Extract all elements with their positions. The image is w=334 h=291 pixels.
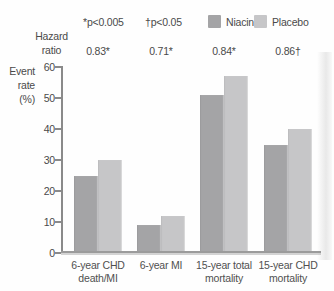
- y-tick-mark: [55, 66, 61, 68]
- y-axis-line: [61, 66, 63, 253]
- y-tick-mark: [55, 221, 61, 223]
- hazard-ratio-value: 0.84*: [212, 45, 236, 57]
- bar-niacin: [200, 95, 224, 253]
- x-category-label-line: 15-year total: [196, 259, 252, 272]
- y-tick-mark: [55, 97, 61, 99]
- x-category-label-line: mortality: [258, 272, 317, 285]
- y-tick-mark: [55, 190, 61, 192]
- hazard-label-line1: Hazard: [28, 29, 75, 43]
- x-category-label: 15-year CHDmortality: [258, 259, 317, 285]
- x-category-label-line: mortality: [196, 272, 252, 285]
- x-category-label-line: death/MI: [71, 272, 124, 285]
- niacin-color-swatch: [208, 15, 221, 28]
- hazard-ratio-value: 0.83*: [86, 45, 110, 57]
- niacin-placebo-event-rate-chart: *p<0.005 †p<0.05 Niacin Placebo Hazard r…: [0, 0, 334, 291]
- y-tick-mark: [55, 159, 61, 161]
- y-axis-title-line2: rate: [0, 78, 35, 92]
- significance-note-2: †p<0.05: [145, 16, 182, 28]
- bar-niacin: [74, 176, 98, 254]
- bar-niacin: [264, 145, 288, 254]
- significance-note-1: *p<0.005: [83, 16, 124, 28]
- y-tick-label: 30: [28, 154, 55, 167]
- y-tick-mark: [55, 128, 61, 130]
- legend-label-niacin: Niacin: [226, 16, 254, 28]
- y-tick-label: 10: [28, 216, 55, 229]
- x-category-label-line: 6-year MI: [140, 259, 183, 272]
- bar-placebo: [288, 129, 312, 253]
- hazard-ratio-label: Hazard ratio: [28, 29, 75, 57]
- x-category-label: 6-year CHDdeath/MI: [71, 259, 124, 285]
- bar-placebo: [98, 160, 122, 253]
- y-tick-label: 40: [28, 123, 55, 136]
- legend-item-placebo: Placebo: [254, 15, 309, 28]
- y-tick-label: 50: [28, 92, 55, 105]
- x-category-label-line: 6-year CHD: [71, 259, 124, 272]
- y-tick-label: 20: [28, 185, 55, 198]
- placebo-color-swatch: [254, 15, 267, 28]
- x-category-label: 6-year MI: [140, 259, 183, 272]
- legend-label-placebo: Placebo: [272, 16, 309, 28]
- bar-placebo: [161, 216, 185, 253]
- legend-item-niacin: Niacin: [208, 15, 254, 28]
- x-category-label: 15-year totalmortality: [196, 259, 252, 285]
- x-category-label-line: 15-year CHD: [258, 259, 317, 272]
- bar-placebo: [224, 76, 248, 253]
- x-axis-line: [61, 251, 321, 253]
- y-tick-label: 0: [28, 247, 55, 260]
- page-edge-shadow: [317, 52, 332, 260]
- hazard-label-line2: ratio: [28, 43, 75, 57]
- bar-niacin: [137, 225, 161, 253]
- y-tick-label: 60: [28, 61, 55, 74]
- hazard-ratio-value: 0.86†: [275, 45, 300, 57]
- hazard-ratio-value: 0.71*: [149, 45, 173, 57]
